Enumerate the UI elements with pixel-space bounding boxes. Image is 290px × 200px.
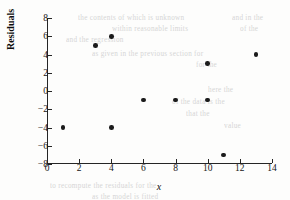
y-tick: −2: [48, 109, 52, 110]
data-point: [221, 153, 226, 158]
x-tick: 8: [176, 159, 177, 163]
y-tick: 4: [48, 55, 52, 56]
x-tick: 2: [79, 159, 80, 163]
data-point: [61, 125, 66, 130]
x-tick: 14: [272, 159, 273, 163]
y-tick: −6: [48, 146, 52, 147]
x-tick-label: 12: [235, 163, 245, 173]
x-tick: 4: [111, 159, 112, 163]
y-tick-label: 8: [43, 13, 48, 23]
x-tick-label: 8: [173, 163, 178, 173]
data-point: [109, 34, 114, 39]
data-point: [205, 61, 210, 66]
data-point: [109, 125, 114, 130]
bleed-text: as the model is fitted: [92, 193, 158, 200]
y-tick-label: 2: [43, 68, 48, 78]
plot-area: 86420−2−4−6−8 02468101214: [47, 18, 272, 164]
y-tick-label: −2: [38, 104, 48, 114]
y-tick-label: 0: [43, 86, 48, 96]
y-tick: −4: [48, 128, 52, 129]
x-tick-label: 2: [77, 163, 82, 173]
x-tick-label: 6: [141, 163, 146, 173]
y-tick-label: −6: [38, 141, 48, 151]
data-point: [254, 52, 259, 57]
y-tick: 6: [48, 36, 52, 37]
x-tick: 0: [47, 159, 48, 163]
bleed-text: to recompute the residuals for the: [50, 182, 157, 190]
y-tick-label: 4: [43, 50, 48, 60]
scatter-plot-figure: the contents of which is unknownand in t…: [0, 0, 290, 200]
y-tick: 2: [48, 73, 52, 74]
y-tick: 8: [48, 18, 52, 19]
x-tick-label: 10: [203, 163, 213, 173]
x-tick: 6: [143, 159, 144, 163]
x-tick-label: 14: [267, 163, 277, 173]
data-point: [141, 98, 146, 103]
x-tick-label: 0: [45, 163, 50, 173]
y-axis-title: Residuals: [5, 9, 16, 50]
x-axis-title: x: [157, 181, 161, 192]
x-tick: 12: [240, 159, 241, 163]
y-tick: 0: [48, 91, 52, 92]
x-tick-label: 4: [109, 163, 114, 173]
data-point: [205, 98, 210, 103]
data-point: [93, 43, 98, 48]
y-tick-label: −4: [38, 123, 48, 133]
y-tick-label: 6: [43, 31, 48, 41]
data-point: [173, 98, 178, 103]
x-tick: 10: [208, 159, 209, 163]
